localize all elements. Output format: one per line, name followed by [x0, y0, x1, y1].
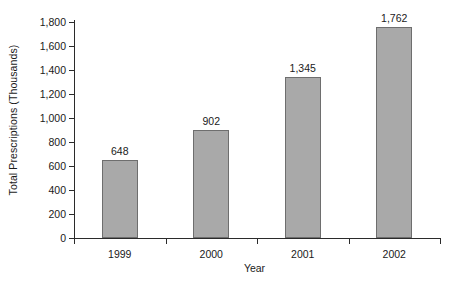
x-axis-tick-label-1999: 1999: [108, 248, 131, 260]
y-axis-tick-mark: [69, 22, 74, 23]
bar-2000[interactable]: [193, 130, 229, 238]
bar-value-label-2001: 1,345: [290, 62, 316, 74]
y-axis-tick-mark: [69, 190, 74, 191]
y-axis-tick-label: 1,400: [40, 64, 66, 76]
y-axis-tick-mark: [69, 142, 74, 143]
x-axis-tick-mark: [166, 238, 167, 244]
y-axis-tick-mark: [69, 118, 74, 119]
bar-value-label-2000: 902: [202, 115, 220, 127]
plot-area: 02004006008001,0001,2001,4001,6001,80064…: [74, 22, 440, 238]
x-axis-tick-label-2000: 2000: [200, 248, 223, 260]
y-axis-tick-label: 1,800: [40, 16, 66, 28]
x-axis-title-label: Year: [244, 262, 265, 274]
x-axis-tick-label-2002: 2002: [383, 248, 406, 260]
y-axis-tick-label: 0: [60, 232, 66, 244]
y-axis-tick-label: 600: [48, 160, 66, 172]
x-axis-tick-mark: [74, 238, 75, 244]
bar-1999[interactable]: [102, 160, 138, 238]
bar-value-label-1999: 648: [111, 145, 129, 157]
bar-chart-figure: Total Prescriptions (Thousands) 02004006…: [0, 0, 457, 287]
y-axis-tick-mark: [69, 70, 74, 71]
y-axis-tick-label: 1,000: [40, 112, 66, 124]
y-axis-tick-label: 1,200: [40, 88, 66, 100]
y-axis-title-label: Total Prescriptions (Thousands): [7, 45, 19, 196]
y-axis-tick-label: 800: [48, 136, 66, 148]
y-axis-tick-label: 200: [48, 208, 66, 220]
x-axis-tick-mark: [440, 238, 441, 244]
bar-value-label-2002: 1,762: [381, 12, 407, 24]
y-axis-tick-mark: [69, 214, 74, 215]
x-axis-tick-label-2001: 2001: [291, 248, 314, 260]
x-axis-tick-mark: [349, 238, 350, 244]
y-axis-tick-mark: [69, 94, 74, 95]
y-axis-tick-label: 400: [48, 184, 66, 196]
y-axis-tick-label: 1,600: [40, 40, 66, 52]
y-axis-tick-mark: [69, 46, 74, 47]
bar-2001[interactable]: [285, 77, 321, 238]
bar-2002[interactable]: [376, 27, 412, 238]
x-axis-title: Year: [0, 262, 457, 274]
x-axis-tick-mark: [257, 238, 258, 244]
y-axis-title: Total Prescriptions (Thousands): [2, 0, 24, 240]
y-axis-tick-mark: [69, 166, 74, 167]
